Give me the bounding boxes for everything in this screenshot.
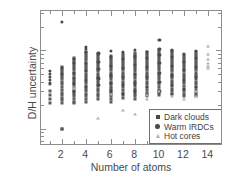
data-point: [194, 90, 198, 93]
axis-tick: [218, 82, 221, 83]
legend-item-hot-cores: Hot cores: [153, 132, 218, 141]
data-point: [145, 97, 149, 100]
data-point: [109, 92, 113, 95]
data-point: [60, 128, 63, 131]
data-point: [158, 93, 161, 96]
x-tick-label: 14: [201, 148, 213, 160]
x-tick-label: 2: [58, 148, 64, 160]
axis-tick: [216, 50, 221, 51]
data-point: [206, 66, 210, 69]
legend-label: Hot cores: [164, 131, 200, 141]
axis-tick: [208, 11, 209, 16]
data-point: [48, 97, 51, 100]
axis-tick: [135, 11, 136, 16]
axis-tick: [41, 54, 44, 55]
data-point: [48, 82, 51, 85]
data-point: [158, 39, 161, 42]
data-point: [206, 57, 210, 60]
axis-tick: [218, 91, 221, 92]
axis-tick: [74, 11, 75, 14]
y-axis-title: D/H uncertainty: [26, 23, 38, 143]
plot-area: Dark clouds Warm IRDCs Hot cores: [40, 10, 222, 145]
chart-figure: Dark clouds Warm IRDCs Hot cores 1.00.12…: [0, 0, 239, 179]
x-axis-title: Number of atoms: [40, 161, 222, 173]
axis-tick: [41, 50, 46, 51]
axis-tick: [41, 13, 44, 14]
x-tick-label: 6: [107, 148, 113, 160]
data-point: [97, 97, 100, 100]
axis-tick: [184, 11, 185, 16]
x-tick-label: 12: [177, 148, 189, 160]
data-point: [60, 102, 63, 105]
axis-tick: [218, 63, 221, 64]
square-marker-icon: [153, 115, 162, 119]
data-point: [48, 93, 51, 96]
data-point: [121, 108, 125, 111]
axis-tick: [218, 54, 221, 55]
axis-tick: [98, 141, 99, 144]
x-tick-label: 4: [82, 148, 88, 160]
axis-tick: [41, 82, 44, 83]
x-tick-label: 10: [153, 148, 165, 160]
legend-label: Warm IRDCs: [164, 122, 214, 132]
axis-tick: [41, 91, 44, 92]
axis-tick: [41, 141, 44, 142]
data-point: [72, 102, 75, 105]
axis-tick: [41, 129, 46, 130]
data-point: [48, 90, 51, 93]
axis-tick: [41, 132, 44, 133]
data-point: [72, 87, 76, 90]
axis-tick: [159, 11, 160, 16]
axis-tick: [41, 27, 44, 28]
axis-tick: [221, 11, 222, 14]
axis-tick: [62, 139, 63, 144]
data-point: [206, 44, 210, 47]
axis-tick: [196, 11, 197, 14]
data-point: [109, 100, 112, 103]
chart-legend: Dark clouds Warm IRDCs Hot cores: [149, 109, 222, 144]
axis-tick: [123, 141, 124, 144]
axis-tick: [218, 74, 221, 75]
data-point: [133, 112, 137, 115]
axis-tick: [41, 74, 44, 75]
axis-tick: [74, 141, 75, 144]
axis-tick: [41, 58, 44, 59]
axis-tick: [50, 11, 51, 14]
legend-item-warm-irdcs: Warm IRDCs: [153, 122, 218, 131]
data-point: [48, 102, 51, 105]
legend-item-dark-clouds: Dark clouds: [153, 113, 218, 122]
axis-tick: [86, 139, 87, 144]
axis-tick: [41, 136, 44, 137]
data-point: [121, 96, 124, 99]
axis-tick: [218, 105, 221, 106]
circle-marker-icon: [153, 124, 162, 128]
axis-tick: [218, 68, 221, 69]
axis-tick: [172, 11, 173, 14]
axis-tick: [218, 27, 221, 28]
axis-tick: [111, 139, 112, 144]
axis-tick: [41, 63, 44, 64]
axis-tick: [147, 11, 148, 14]
data-point: [170, 95, 174, 98]
data-point: [182, 97, 186, 100]
data-point: [96, 117, 100, 120]
x-tick-label: 8: [131, 148, 137, 160]
data-point: [145, 93, 149, 96]
axis-tick: [50, 141, 51, 144]
data-point: [194, 95, 198, 98]
axis-tick: [98, 11, 99, 14]
axis-tick: [218, 58, 221, 59]
data-point: [206, 53, 210, 56]
axis-tick: [62, 11, 63, 16]
triangle-marker-icon: [153, 134, 162, 138]
axis-tick: [86, 11, 87, 16]
data-point: [157, 90, 161, 93]
axis-tick: [135, 139, 136, 144]
axis-tick: [41, 68, 44, 69]
data-point: [85, 100, 88, 103]
axis-tick: [111, 11, 112, 16]
axis-tick: [123, 11, 124, 14]
legend-label: Dark clouds: [164, 112, 209, 122]
data-point: [109, 50, 112, 53]
data-point: [134, 97, 137, 100]
